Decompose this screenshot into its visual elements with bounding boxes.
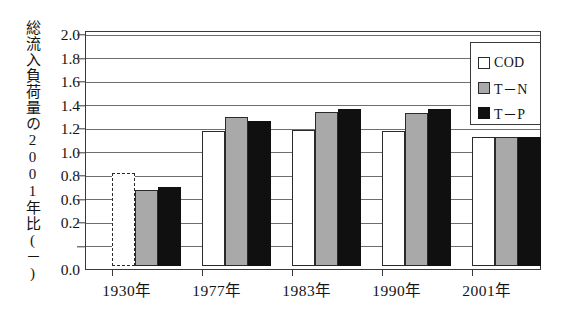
legend-label-tn: T－N [494, 78, 528, 98]
x-tick-label-1977: 1977年 [172, 278, 262, 300]
y-axis-tick-labels: 2.0 1.8 1.6 1.4 1.2 1.0 0.8 0.6 0.2 0.0 [30, 0, 80, 317]
legend-item-tn: T－N [478, 75, 540, 100]
bar-COD-1930 [112, 173, 135, 266]
y-tick-label: 0.6 [36, 192, 80, 208]
x-tick-mark [472, 270, 473, 276]
y-tick-label: 1.2 [36, 121, 80, 137]
bar-COD-1983 [292, 130, 315, 266]
y-tick-mark [77, 222, 85, 223]
y-tick-mark [77, 58, 85, 59]
y-tick-mark [77, 199, 85, 200]
white-square-icon [478, 57, 490, 69]
legend-label-tp: T－P [494, 103, 525, 123]
x-tick-mark [292, 270, 293, 276]
y-tick-mark [77, 246, 85, 247]
x-tick-label-1983: 1983年 [262, 278, 352, 300]
y-tick-label: 2.0 [36, 27, 80, 43]
y-tick-mark [77, 152, 85, 153]
bar-TN-1930 [135, 190, 158, 266]
y-tick-mark [77, 105, 85, 106]
legend-item-cod: COD [478, 50, 540, 75]
bar-TN-2001 [495, 137, 518, 266]
legend-label-cod: COD [494, 55, 524, 71]
bar-TP-1977 [248, 121, 271, 266]
x-tick-mark [112, 270, 113, 276]
bar-TN-1990 [405, 113, 428, 266]
y-tick-mark [77, 175, 85, 176]
bar-TP-2001 [518, 137, 541, 266]
bar-TN-1977 [225, 117, 248, 266]
chart-legend: COD T－N T－P [470, 42, 541, 125]
x-tick-mark [202, 270, 203, 276]
bar-TP-1930 [158, 187, 181, 266]
legend-item-tp: T－P [478, 100, 540, 125]
bar-TP-1990 [428, 109, 451, 266]
y-tick-label: 0.8 [36, 168, 80, 184]
gray-square-icon [478, 82, 490, 94]
x-tick-label-1990: 1990年 [352, 278, 442, 300]
bar-COD-1990 [382, 131, 405, 266]
x-tick-mark [382, 270, 383, 276]
y-tick-mark [77, 34, 85, 35]
y-tick-label: 0.0 [36, 262, 80, 278]
black-square-icon [478, 107, 490, 119]
y-tick-label: 1.0 [36, 145, 80, 161]
y-tick-mark [77, 81, 85, 82]
x-tick-label-1930: 1930年 [82, 278, 172, 300]
x-tick-label-2001: 2001年 [442, 278, 532, 300]
bar-TP-1983 [338, 109, 361, 266]
bar-TN-1983 [315, 112, 338, 266]
y-tick-mark [77, 128, 85, 129]
bar-COD-1977 [202, 131, 225, 266]
y-tick-label: 0.2 [36, 215, 80, 231]
y-tick-label: 1.4 [36, 98, 80, 114]
y-tick-label: 1.8 [36, 51, 80, 67]
y-tick-label: 1.6 [36, 74, 80, 90]
bar-chart-figure: 総流入負荷量の2001年比(－) 2.0 1.8 1.6 1.4 1.2 1.0… [0, 0, 569, 317]
bar-COD-2001 [472, 137, 495, 266]
